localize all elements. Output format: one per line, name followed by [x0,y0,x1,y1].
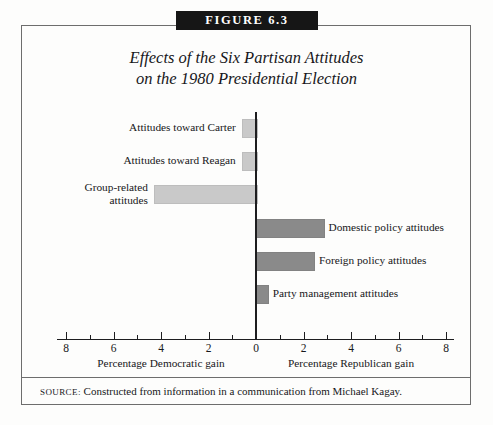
bar-label: Domestic policy attitudes [329,221,444,234]
zero-axis-line [255,112,257,340]
bar-label-line: Attitudes toward Carter [129,121,236,134]
bar-republican [256,219,325,238]
bar-label-line: Group-related [85,181,148,194]
bar-label-line: Domestic policy attitudes [329,221,444,234]
bar-label: Attitudes toward Carter [129,121,236,134]
x-tick-major [256,332,257,340]
bar-label-line: Foreign policy attitudes [319,254,426,267]
x-tick-major [399,332,400,340]
x-tick-minor [327,335,328,340]
x-tick-label: 2 [199,342,219,354]
x-tick-major [161,332,162,340]
x-tick-major [304,332,305,340]
bar-label: Party management attitudes [273,287,399,300]
bar-republican [256,285,269,304]
bar-label-line: Party management attitudes [273,287,399,300]
chart-plot-area: Attitudes toward CarterAttitudes toward … [0,0,493,425]
x-axis-caption-left: Percentage Democratic gain [71,357,251,369]
source-note: SOURCE: Constructed from information in … [40,385,402,397]
bar-label-line: attitudes [85,194,148,207]
source-divider [21,377,471,378]
x-tick-minor [232,335,233,340]
bar-democratic [154,185,258,204]
x-tick-minor [422,335,423,340]
x-tick-major [209,332,210,340]
bar-label: Foreign policy attitudes [319,254,426,267]
bar-label: Group-relatedattitudes [85,181,148,207]
x-tick-major [446,332,447,340]
x-tick-minor [137,335,138,340]
x-axis-caption-right: Percentage Republican gain [261,357,441,369]
bar-label-line: Attitudes toward Reagan [123,154,235,167]
x-tick-label: 4 [151,342,171,354]
x-tick-label: 8 [436,342,456,354]
x-tick-major [66,332,67,340]
figure-number-banner: FIGURE 6.3 [176,11,318,30]
x-tick-label: 0 [246,342,266,354]
x-tick-label: 6 [104,342,124,354]
x-tick-minor [375,335,376,340]
x-tick-label: 8 [56,342,76,354]
source-text: Constructed from information in a commun… [84,385,403,397]
bar-republican [256,252,315,271]
x-tick-label: 6 [389,342,409,354]
x-tick-major [114,332,115,340]
x-tick-minor [280,335,281,340]
bar-label: Attitudes toward Reagan [123,154,235,167]
x-tick-major [351,332,352,340]
x-tick-label: 4 [341,342,361,354]
x-tick-label: 2 [294,342,314,354]
figure-page: FIGURE 6.3 Effects of the Six Partisan A… [0,0,493,425]
x-tick-minor [90,335,91,340]
x-tick-minor [185,335,186,340]
source-label: SOURCE: [40,387,81,397]
